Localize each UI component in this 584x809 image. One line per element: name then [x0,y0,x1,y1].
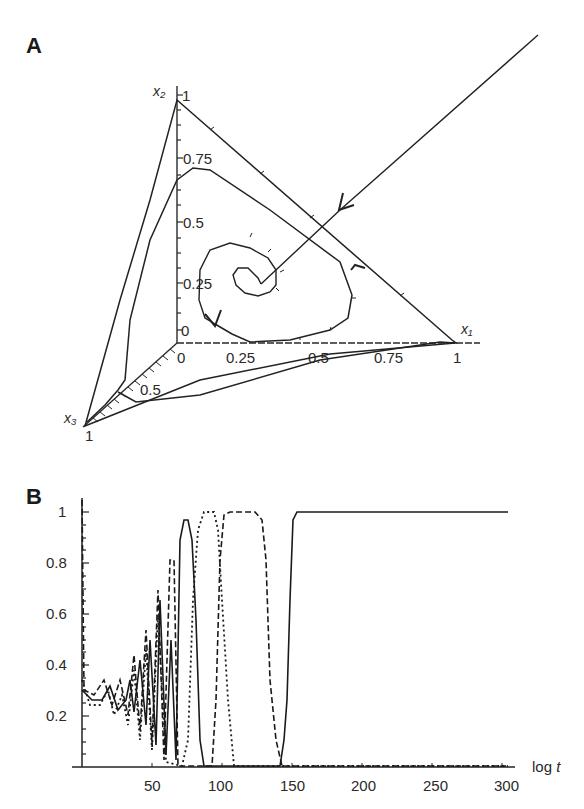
x2-tick-05: 0.5 [183,214,204,231]
x-tick-200: 200 [351,777,376,794]
x2-axis-label: x₂ [152,83,166,99]
x3-tick-1: 1 [85,427,93,444]
arrow-incoming-icon [339,193,354,210]
arrow-spiral-icon [205,310,221,326]
x3-tick-05: 0.5 [140,381,161,398]
x-tick-300: 300 [494,777,519,794]
y-tick-06: 0.6 [46,605,67,622]
x2-tick-075: 0.75 [183,150,212,167]
series-solid [82,512,508,766]
x-tick-50: 50 [144,777,161,794]
inner-spiral [199,35,538,324]
panel-b-label: B [26,484,42,510]
y-tick-02: 0.2 [46,707,67,724]
arrow-outer-icon [351,265,365,270]
x2-tick-1: 1 [182,87,190,104]
x-ticks [152,763,502,767]
x3-axis-label: x₃ [63,410,77,426]
x-tick-100: 100 [208,777,233,794]
y-tick-1: 1 [58,503,66,520]
x-tick-250: 250 [423,777,448,794]
x1-tick-1: 1 [453,349,461,366]
series-dashed [82,500,508,766]
x2-ticks [177,95,183,330]
x-axis-label: log t [532,758,561,775]
x2-tick-025: 0.25 [183,275,212,292]
x1-axis-label: x₁ [460,321,473,337]
y-ticks [82,512,89,754]
y-tick-08: 0.8 [46,554,67,571]
x1-tick-0: 0 [177,349,185,366]
x3-ticks [93,349,175,422]
series-dotted [82,512,508,766]
x-tick-150: 150 [280,777,305,794]
trajectory-tick-marks [210,127,404,340]
panel-a-simplex-plot: 1 0.75 0.5 0.25 0 0 0.25 0.5 0.75 1 0.5 … [0,0,584,460]
trajectory-arrows [205,193,365,326]
x1-tick-025: 0.25 [226,349,255,366]
y-tick-04: 0.4 [46,656,67,673]
x2-tick-0: 0 [181,322,189,339]
